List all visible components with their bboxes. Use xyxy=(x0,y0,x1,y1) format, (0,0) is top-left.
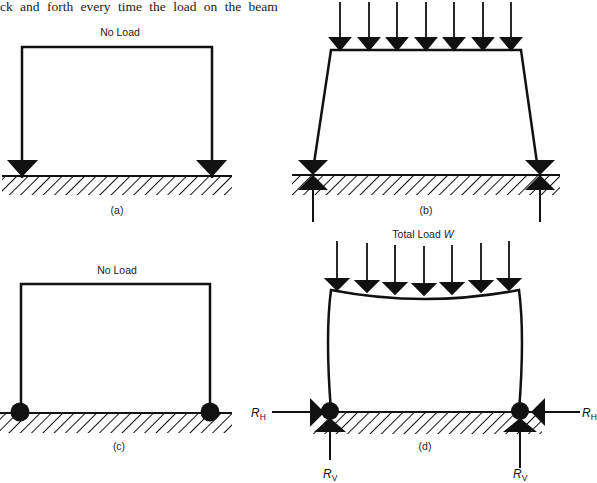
panel-c-frame xyxy=(21,284,210,412)
panel-a-support-left-icon xyxy=(7,160,38,177)
panel-b-frame xyxy=(313,50,538,170)
reaction-rv-left-label: RV xyxy=(323,467,338,483)
reaction-rh-left-label: RH xyxy=(251,406,266,422)
panel-c-ground xyxy=(0,413,232,433)
panel-a-ground xyxy=(2,176,232,195)
panel-c-hinge-left-icon xyxy=(11,403,30,422)
reaction-rh-right-label: RH xyxy=(582,406,597,422)
panel-a-title: No Load xyxy=(100,26,140,38)
panel-a-frame xyxy=(22,47,212,178)
panel-c: No Load (c) xyxy=(0,264,232,452)
panel-d: Total Load W xyxy=(251,228,597,483)
panel-a: No Load (a) xyxy=(2,26,232,216)
panel-b-caption: (b) xyxy=(420,204,433,216)
panel-a-caption: (a) xyxy=(111,204,124,216)
panel-a-support-right-icon xyxy=(196,160,227,177)
panel-c-hinge-right-icon xyxy=(201,403,220,422)
reaction-rv-right-label: RV xyxy=(513,467,528,483)
frame-diagram: No Load (a) xyxy=(0,0,597,483)
panel-d-load-arrows xyxy=(326,241,520,295)
panel-d-title: Total Load W xyxy=(392,228,454,240)
panel-b-ground xyxy=(292,175,560,195)
panel-b: (b) xyxy=(292,2,560,222)
panel-c-title: No Load xyxy=(97,264,137,276)
panel-b-load-arrows xyxy=(330,2,521,50)
panel-d-frame xyxy=(328,290,522,411)
panel-c-caption: (c) xyxy=(113,440,125,452)
panel-d-caption: (d) xyxy=(419,440,432,452)
panel-d-support-left-icon xyxy=(272,398,346,460)
